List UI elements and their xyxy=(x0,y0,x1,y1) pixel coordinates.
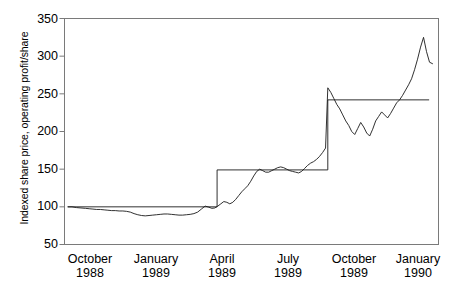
x-tick-jul-1989: July 1989 xyxy=(274,252,302,280)
x-tick-oct-1988: October 1988 xyxy=(68,252,112,280)
share-price-line xyxy=(68,37,433,216)
chart-figure: Indexed share price, operating profit/sh… xyxy=(0,0,462,297)
x-tick-jan-1989: January 1989 xyxy=(134,252,178,280)
x-tick-oct-1989: October 1989 xyxy=(332,252,376,280)
operating-profit-step-line xyxy=(68,100,429,207)
y-axis-tick-marks xyxy=(60,19,65,245)
x-tick-apr-1989: April 1989 xyxy=(208,252,236,280)
x-tick-jan-1990: January 1990 xyxy=(396,252,440,280)
